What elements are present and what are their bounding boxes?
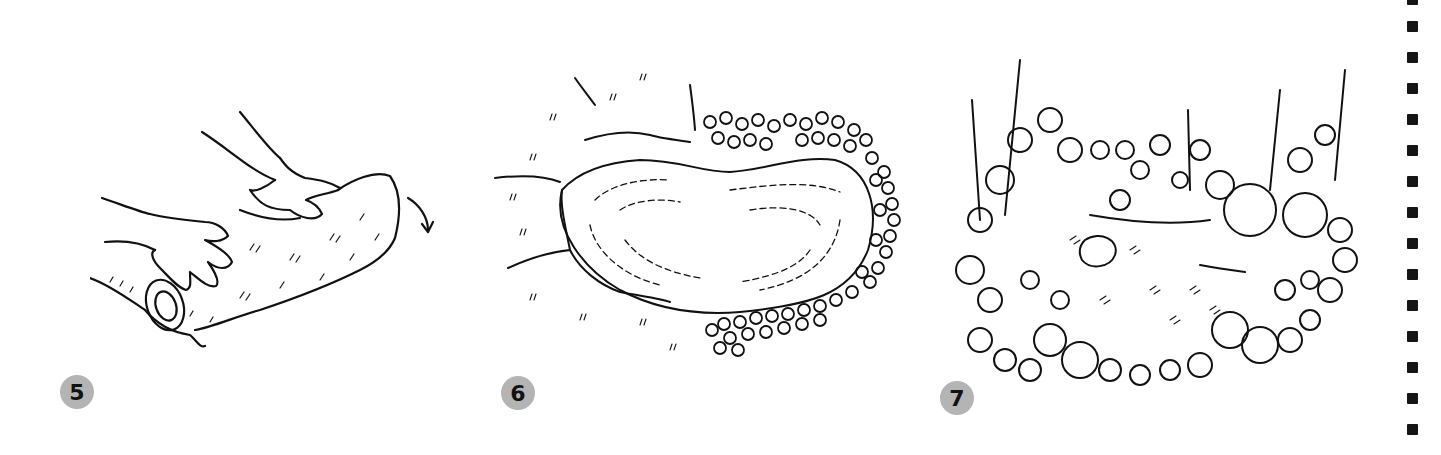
binding-hole (1407, 424, 1418, 435)
step-7-badge: 7 (940, 381, 974, 415)
binding-hole (1407, 83, 1418, 94)
binding-hole (1407, 269, 1418, 280)
binding-hole (1407, 393, 1418, 404)
binding-hole (1407, 21, 1418, 32)
binding-hole (1407, 331, 1418, 342)
step-5-number: 5 (69, 380, 84, 405)
binding-holes (1407, 0, 1421, 455)
binding-hole (1407, 0, 1418, 5)
step-6-number: 6 (510, 381, 525, 406)
binding-hole (1407, 114, 1418, 125)
binding-hole (1407, 238, 1418, 249)
step-7-illustration (950, 40, 1380, 390)
binding-hole (1407, 145, 1418, 156)
heart-shaped-pond-with-stones-icon (490, 60, 920, 370)
binding-hole (1407, 362, 1418, 373)
binding-hole (1407, 176, 1418, 187)
step-7-number: 7 (949, 386, 964, 411)
step-5-badge: 5 (60, 375, 94, 409)
step-5-illustration (90, 110, 450, 360)
binding-hole (1407, 52, 1418, 63)
hands-rolling-turf-icon (90, 110, 450, 360)
planted-pond-with-foliage-icon (950, 40, 1380, 390)
step-6-illustration (490, 60, 920, 370)
step-6-badge: 6 (501, 376, 535, 410)
binding-hole (1407, 300, 1418, 311)
binding-hole (1407, 207, 1418, 218)
